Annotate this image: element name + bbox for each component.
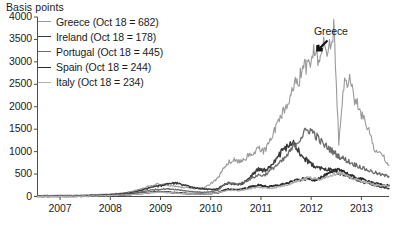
legend-item-greece[interactable]: Greece (Oct 18 = 682) (38, 14, 163, 29)
legend-item-portugal[interactable]: Portugal (Oct 18 = 445) (38, 44, 163, 59)
legend-item-label: Greece (Oct 18 = 682) (56, 16, 159, 28)
y-axis-tick-label: 3000 (0, 55, 32, 67)
x-axis-tick-label: 2008 (90, 202, 130, 214)
legend-line-swatch-icon (38, 67, 51, 68)
legend-line-swatch-icon (38, 51, 51, 52)
sovereign-spread-chart: Basis points 400035003000250020001500100… (0, 0, 395, 226)
series-line-ireland (38, 141, 390, 197)
legend-item-label: Italy (Oct 18 = 234) (56, 76, 144, 88)
annotation-arrow-icon (315, 39, 329, 53)
x-axis-tick-label: 2010 (191, 202, 231, 214)
y-axis-tick-label: 500 (0, 167, 32, 179)
y-axis-tick-label: 4000 (0, 10, 32, 22)
legend-item-label: Spain (Oct 18 = 244) (56, 61, 151, 73)
y-axis-tick-label: 2500 (0, 77, 32, 89)
chart-legend: Greece (Oct 18 = 682)Ireland (Oct 18 = 1… (38, 14, 163, 90)
legend-line-swatch-icon (38, 36, 51, 37)
greece-annotation-label: Greece (314, 25, 348, 37)
x-axis-tick-label: 2013 (341, 202, 381, 214)
series-line-portugal (38, 128, 390, 196)
y-axis-ticks (34, 17, 38, 197)
y-axis-tick-label: 1000 (0, 145, 32, 157)
x-axis-tick-label: 2012 (291, 202, 331, 214)
x-axis-tick-label: 2007 (40, 202, 80, 214)
y-axis-tick-label: 3500 (0, 32, 32, 44)
legend-line-swatch-icon (38, 82, 51, 83)
legend-item-spain[interactable]: Spain (Oct 18 = 244) (38, 60, 163, 75)
y-axis-tick-label: 1500 (0, 122, 32, 134)
y-axis-tick-label: 2000 (0, 100, 32, 112)
series-line-italy (38, 172, 390, 197)
legend-item-italy[interactable]: Italy (Oct 18 = 234) (38, 75, 163, 90)
y-axis-tick-label: 0 (0, 190, 32, 202)
x-axis-tick-label: 2009 (141, 202, 181, 214)
legend-item-label: Portugal (Oct 18 = 445) (56, 46, 163, 58)
legend-line-swatch-icon (38, 21, 51, 22)
x-axis-tick-label: 2011 (241, 202, 281, 214)
legend-item-ireland[interactable]: Ireland (Oct 18 = 178) (38, 29, 163, 44)
x-axis-ticks (60, 197, 361, 201)
legend-item-label: Ireland (Oct 18 = 178) (56, 31, 156, 43)
